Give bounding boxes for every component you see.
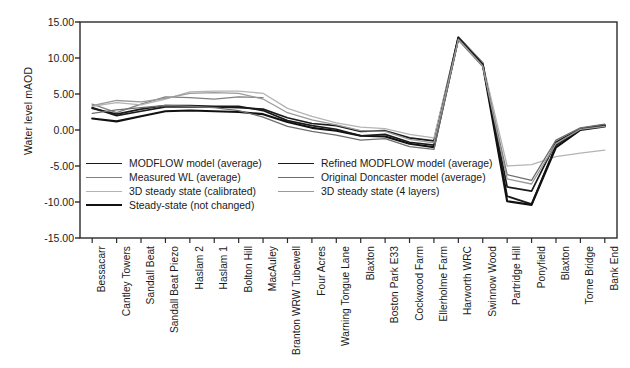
x-tick-label: Four Acres xyxy=(316,246,327,296)
legend-line-swatch xyxy=(86,204,122,206)
x-tick-label: Warning Tongue Lane xyxy=(340,246,351,346)
x-tick-label: Blaxton xyxy=(365,246,376,280)
legend-label: MODFLOW model (average) xyxy=(129,158,262,169)
legend-line-swatch xyxy=(278,191,314,192)
x-tick-label: Ellerholme Farm xyxy=(438,246,449,321)
legend-entry: MODFLOW model (average) xyxy=(86,156,262,170)
x-tick-label: Harworth WRC xyxy=(462,246,473,315)
x-tick-label: Ponyfield xyxy=(536,246,547,288)
legend-entry: 3D steady state (4 layers) xyxy=(278,184,493,198)
legend-entry: Refined MODFLOW model (average) xyxy=(278,156,493,170)
legend-label: Refined MODFLOW model (average) xyxy=(321,158,493,169)
x-tick-label: Bessacarr xyxy=(96,246,107,292)
legend-column-right: Refined MODFLOW model (average)Original … xyxy=(278,156,493,198)
chart-legend: MODFLOW model (average)Measured WL (aver… xyxy=(86,156,586,212)
x-tick-label: Haslam 2 xyxy=(194,246,205,289)
legend-column-left: MODFLOW model (average)Measured WL (aver… xyxy=(86,156,262,212)
x-tick-label: Torne Bridge xyxy=(584,246,595,304)
x-tick-label: Cockwood Farm xyxy=(414,246,425,321)
legend-label: 3D steady state (4 layers) xyxy=(321,186,439,197)
legend-label: Steady-state (not changed) xyxy=(129,200,254,211)
x-tick-label: Bank End xyxy=(609,246,620,291)
x-tick-label: Bolton Hill xyxy=(243,246,254,292)
x-tick-label: Boston Park E33 xyxy=(389,246,400,323)
legend-line-swatch xyxy=(278,177,314,178)
x-tick-label: Swinnow Wood xyxy=(487,246,498,317)
legend-entry: Original Doncaster model (average) xyxy=(278,170,493,184)
legend-entry: Measured WL (average) xyxy=(86,170,262,184)
legend-line-swatch xyxy=(86,191,122,192)
legend-line-swatch xyxy=(278,163,314,164)
legend-label: Original Doncaster model (average) xyxy=(321,172,486,183)
legend-line-swatch xyxy=(86,163,122,164)
x-tick-label: Haslam 1 xyxy=(218,246,229,289)
x-tick-label: Blaxton xyxy=(560,246,571,280)
water-level-line-chart: Water level mAOD 15.0010.005.000.00-5.00… xyxy=(0,0,630,368)
legend-entry: 3D steady state (calibrated) xyxy=(86,184,262,198)
x-tick-label: Sandall Beat Piezo xyxy=(169,246,180,333)
x-tick-label: MacAuley xyxy=(267,246,278,291)
legend-line-swatch xyxy=(86,177,122,178)
legend-label: 3D steady state (calibrated) xyxy=(129,186,256,197)
x-tick-label: Sandall Beat xyxy=(145,246,156,304)
x-tick-label: Cantley Towers xyxy=(121,246,132,316)
legend-label: Measured WL (average) xyxy=(129,172,241,183)
legend-entry: Steady-state (not changed) xyxy=(86,198,262,212)
x-tick-label: Branton WRW Tubewell xyxy=(291,246,302,355)
x-tick-label: Partridge Hill xyxy=(511,246,522,305)
